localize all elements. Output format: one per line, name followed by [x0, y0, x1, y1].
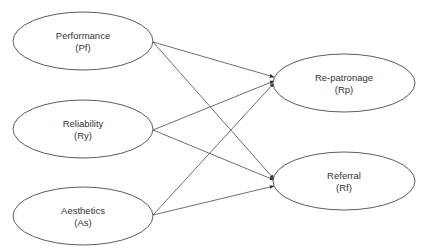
edge-pf-to-rf — [153, 42, 274, 179]
node-abbreviation: (As) — [74, 217, 91, 228]
edge-pf-to-rp — [153, 42, 274, 77]
node-label: Aesthetics — [61, 205, 105, 216]
node-re-patronage: Re-patronage(Rp) — [273, 54, 415, 112]
node-label: Performance — [56, 30, 110, 41]
node-label: Reliability — [63, 118, 104, 129]
node-reliability: Reliability(Ry) — [13, 100, 153, 158]
node-abbreviation: (Rp) — [335, 84, 353, 95]
node-referral: Referral(Rf) — [273, 152, 415, 210]
edge-as-to-rf — [153, 186, 274, 215]
node-ellipse — [13, 100, 153, 158]
node-abbreviation: (Ry) — [74, 130, 92, 141]
path-diagram: Performance(Pf)Reliability(Ry)Aesthetics… — [0, 0, 425, 252]
node-label: Re-patronage — [315, 72, 373, 83]
node-ellipse — [273, 54, 415, 112]
node-ellipse — [273, 152, 415, 210]
node-label: Referral — [327, 170, 361, 181]
node-aesthetics: Aesthetics(As) — [13, 187, 153, 245]
arrow-line — [153, 81, 274, 130]
arrow-line — [153, 130, 274, 180]
arrow-line — [153, 83, 274, 215]
node-abbreviation: (Rf) — [336, 182, 352, 193]
edge-ry-to-rp — [153, 81, 274, 130]
edges-layer — [153, 42, 274, 215]
nodes-layer: Performance(Pf)Reliability(Ry)Aesthetics… — [13, 12, 415, 245]
arrow-line — [153, 186, 274, 215]
node-ellipse — [13, 187, 153, 245]
edge-as-to-rp — [153, 83, 274, 215]
arrow-line — [153, 42, 274, 179]
node-abbreviation: (Pf) — [75, 42, 90, 53]
node-performance: Performance(Pf) — [13, 12, 153, 70]
arrow-line — [153, 42, 274, 77]
edge-ry-to-rf — [153, 130, 274, 180]
node-ellipse — [13, 12, 153, 70]
